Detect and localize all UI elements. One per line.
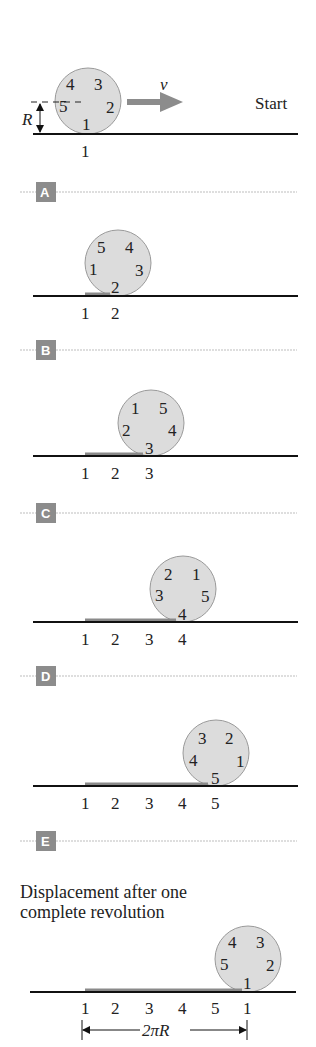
velocity-label: v [160, 75, 168, 94]
divider-c: C [20, 503, 297, 523]
ground-label: 2 [111, 464, 120, 483]
wheel-number: 4 [168, 421, 177, 440]
wheel-number: 2 [111, 278, 120, 297]
wheel-number: 2 [225, 729, 234, 748]
rolling-wheel-diagram: R 4 3 5 2 1 v Start 1 A 5 4 1 3 2 1 2 [0, 0, 316, 1047]
wheel-number: 1 [192, 565, 201, 584]
ground-label: 1 [81, 630, 90, 649]
panel-a: 5 4 1 3 2 1 2 [33, 230, 298, 323]
ground-label: 1 [243, 999, 252, 1018]
svg-text:C: C [41, 506, 51, 521]
wheel-number: 5 [220, 955, 229, 974]
wheel-number: 4 [125, 238, 134, 257]
ground-label: 2 [111, 999, 120, 1018]
start-label: Start [255, 94, 287, 113]
ground-label: 2 [111, 304, 120, 323]
panel-d: 3 2 4 1 5 1 2 3 4 5 [33, 720, 298, 813]
divider-d: D [20, 666, 297, 686]
wheel-number: 1 [131, 399, 140, 418]
wheel-number: 2 [106, 98, 115, 117]
ground-label: 1 [81, 794, 90, 813]
panel-final: Displacement after one complete revoluti… [20, 882, 296, 1040]
wheel-number: 5 [201, 587, 210, 606]
ground-label: 1 [81, 999, 90, 1018]
final-caption-line-1: Displacement after one [20, 882, 187, 902]
ground-label: 4 [178, 999, 187, 1018]
wheel-number: 1 [89, 260, 98, 279]
ground-label: 5 [211, 794, 220, 813]
wheel-number: 3 [198, 729, 207, 748]
ground-label: 2 [111, 794, 120, 813]
svg-text:D: D [41, 669, 50, 684]
panel-c: 2 1 3 5 4 1 2 3 4 [33, 556, 298, 649]
wheel-number: 3 [94, 75, 103, 94]
svg-text:A: A [40, 185, 50, 200]
wheel-number: 2 [164, 565, 173, 584]
ground-label: 4 [178, 630, 187, 649]
ground-label: 3 [145, 794, 154, 813]
ground-label: 5 [211, 999, 220, 1018]
wheel-number: 1 [82, 115, 91, 134]
wheel-number: 2 [122, 421, 131, 440]
wheel-number: 3 [256, 933, 265, 952]
wheel-number: 2 [266, 956, 275, 975]
wheel-number: 1 [236, 752, 245, 771]
ground-label: 4 [178, 794, 187, 813]
panel-start: R 4 3 5 2 1 v Start 1 [21, 68, 298, 161]
ground-label: 3 [145, 464, 154, 483]
wheel-number: 4 [66, 75, 75, 94]
wheel-number: 4 [189, 751, 198, 770]
divider-b: B [20, 340, 297, 360]
ground-label: 2 [111, 630, 120, 649]
circumference-dimension: 2πR [82, 1020, 247, 1040]
panel-b: 1 5 2 4 3 1 2 3 [33, 390, 298, 483]
final-caption-line-2: complete revolution [20, 902, 164, 922]
svg-text:B: B [41, 343, 50, 358]
svg-text:E: E [41, 834, 50, 849]
wheel-number: 5 [97, 238, 106, 257]
wheel-number: 4 [228, 933, 237, 952]
circumference-label: 2πR [142, 1021, 170, 1040]
radius-label: R [21, 110, 33, 129]
ground-label: 3 [145, 999, 154, 1018]
divider-a: A [20, 182, 297, 202]
ground-label: 1 [81, 464, 90, 483]
wheel-number: 3 [135, 261, 144, 280]
ground-label: 1 [81, 304, 90, 323]
wheel-number: 1 [243, 974, 252, 993]
divider-e: E [20, 831, 297, 851]
wheel-number: 5 [159, 399, 168, 418]
wheel-number: 3 [155, 586, 164, 605]
ground-label: 3 [145, 630, 154, 649]
velocity-arrow-icon [127, 92, 183, 112]
wheel-number: 5 [59, 97, 68, 116]
ground-label: 1 [81, 142, 90, 161]
